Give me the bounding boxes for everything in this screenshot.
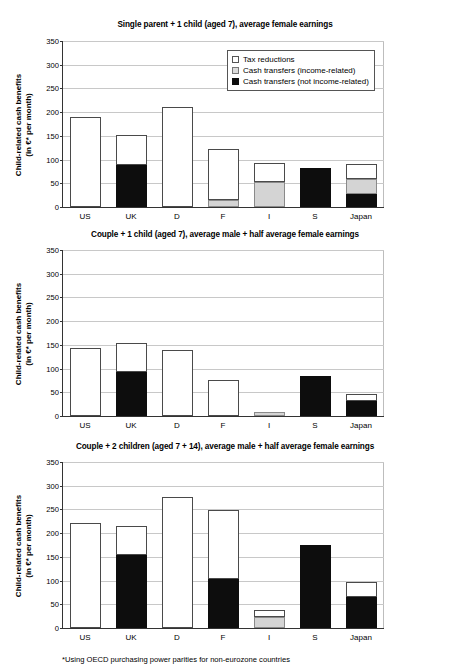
x-tick-label: I bbox=[246, 212, 292, 221]
y-tick-label: 200 bbox=[46, 108, 59, 117]
bar-segment bbox=[116, 372, 147, 416]
bar-segment bbox=[70, 348, 101, 416]
legend-item[interactable]: Cash transfers (income-related) bbox=[232, 65, 369, 76]
bar-segment bbox=[208, 380, 239, 416]
y-tick-label: 150 bbox=[46, 340, 59, 349]
x-tick-label: UK bbox=[108, 421, 154, 430]
stacked-bar[interactable] bbox=[300, 545, 331, 628]
stacked-bar[interactable] bbox=[346, 164, 377, 207]
y-tick-label: 0 bbox=[55, 412, 59, 421]
bar-segment bbox=[254, 617, 285, 628]
y-tick-mark bbox=[60, 416, 63, 417]
y-tick-label: 200 bbox=[46, 529, 59, 538]
stacked-bar[interactable] bbox=[346, 394, 377, 416]
stacked-bar[interactable] bbox=[70, 117, 101, 207]
stacked-bar[interactable] bbox=[254, 610, 285, 628]
y-axis-label-line2: (in €* per month) bbox=[24, 251, 34, 417]
chart-panel-1: Couple + 1 child (aged 7), average male … bbox=[0, 222, 450, 437]
y-tick-label: 200 bbox=[46, 317, 59, 326]
chart-panel-2: Couple + 2 children (aged 7 + 14), avera… bbox=[0, 437, 450, 652]
y-tick-label: 50 bbox=[51, 388, 59, 397]
legend-swatch-gray-icon bbox=[232, 67, 239, 74]
stacked-bar[interactable] bbox=[300, 168, 331, 207]
figure-container: Single parent + 1 child (aged 7), averag… bbox=[0, 0, 450, 672]
y-axis-label-line1: Child-related cash benefits bbox=[14, 463, 24, 629]
bar-segment bbox=[208, 149, 239, 200]
stacked-bar[interactable] bbox=[208, 380, 239, 416]
stacked-bar[interactable] bbox=[300, 376, 331, 416]
y-tick-label: 150 bbox=[46, 131, 59, 140]
bar-segment bbox=[346, 401, 377, 416]
x-tick-label: Japan bbox=[338, 212, 384, 221]
stacked-bar[interactable] bbox=[162, 350, 193, 416]
gridline bbox=[63, 416, 384, 417]
bar-segment bbox=[300, 545, 331, 628]
bar-segment bbox=[116, 165, 147, 207]
y-axis-label-line2: (in €* per month) bbox=[24, 463, 34, 629]
bar-segment bbox=[346, 164, 377, 180]
y-axis-label-line1: Child-related cash benefits bbox=[14, 251, 24, 417]
stacked-bar[interactable] bbox=[116, 135, 147, 207]
bar-slot bbox=[63, 250, 109, 416]
x-tick-label: D bbox=[154, 633, 200, 642]
y-tick-label: 250 bbox=[46, 293, 59, 302]
bar-group bbox=[63, 462, 384, 628]
x-tick-label: Japan bbox=[338, 633, 384, 642]
bar-slot bbox=[246, 250, 292, 416]
bar-segment bbox=[254, 163, 285, 183]
bar-group bbox=[63, 250, 384, 416]
x-tick-label: S bbox=[292, 633, 338, 642]
plot-axes: 050100150200250300350 bbox=[62, 462, 384, 629]
x-tick-label: F bbox=[200, 421, 246, 430]
y-axis-label: Child-related cash benefits(in €* per mo… bbox=[14, 463, 34, 629]
y-tick-label: 250 bbox=[46, 505, 59, 514]
stacked-bar[interactable] bbox=[116, 343, 147, 416]
x-tick-label: S bbox=[292, 421, 338, 430]
chart-title: Couple + 1 child (aged 7), average male … bbox=[0, 230, 450, 239]
legend-item[interactable]: Tax reductions bbox=[232, 54, 369, 65]
stacked-bar[interactable] bbox=[70, 348, 101, 416]
stacked-bar[interactable] bbox=[162, 107, 193, 207]
x-tick-label: D bbox=[154, 421, 200, 430]
bar-segment bbox=[300, 376, 331, 416]
bar-slot bbox=[109, 462, 155, 628]
stacked-bar[interactable] bbox=[116, 526, 147, 628]
bar-segment bbox=[346, 394, 377, 402]
legend-label: Cash transfers (income-related) bbox=[243, 65, 355, 76]
stacked-bar[interactable] bbox=[254, 163, 285, 207]
bar-slot bbox=[338, 462, 384, 628]
y-tick-mark bbox=[60, 207, 63, 208]
x-tick-label: UK bbox=[108, 633, 154, 642]
bar-slot bbox=[292, 462, 338, 628]
y-axis-label: Child-related cash benefits(in €* per mo… bbox=[14, 42, 34, 208]
x-tick-label: Japan bbox=[338, 421, 384, 430]
bar-slot bbox=[201, 250, 247, 416]
y-tick-mark bbox=[60, 628, 63, 629]
x-tick-label: S bbox=[292, 212, 338, 221]
y-tick-label: 100 bbox=[46, 364, 59, 373]
y-tick-label: 150 bbox=[46, 552, 59, 561]
bar-slot bbox=[246, 462, 292, 628]
bar-segment bbox=[70, 117, 101, 207]
stacked-bar[interactable] bbox=[70, 523, 101, 628]
bar-segment bbox=[346, 582, 377, 597]
legend-item[interactable]: Cash transfers (not income-related) bbox=[232, 76, 369, 87]
bar-segment bbox=[208, 510, 239, 579]
gridline bbox=[63, 628, 384, 629]
x-tick-label: I bbox=[246, 421, 292, 430]
y-tick-label: 250 bbox=[46, 84, 59, 93]
stacked-bar[interactable] bbox=[208, 149, 239, 207]
x-tick-label: D bbox=[154, 212, 200, 221]
gridline bbox=[63, 207, 384, 208]
stacked-bar[interactable] bbox=[208, 510, 239, 628]
bar-segment bbox=[70, 523, 101, 628]
bar-segment bbox=[116, 555, 147, 628]
bar-slot bbox=[155, 462, 201, 628]
x-axis-labels: USUKDFISJapan bbox=[62, 212, 384, 221]
stacked-bar[interactable] bbox=[254, 412, 285, 416]
stacked-bar[interactable] bbox=[162, 497, 193, 628]
stacked-bar[interactable] bbox=[346, 582, 377, 628]
y-tick-label: 0 bbox=[55, 624, 59, 633]
bar-segment bbox=[116, 135, 147, 164]
bar-segment bbox=[254, 610, 285, 617]
